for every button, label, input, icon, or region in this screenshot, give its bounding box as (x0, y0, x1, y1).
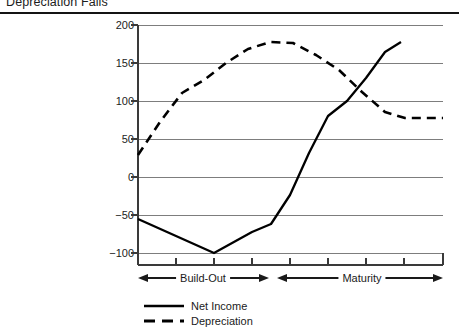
chart-legend: Net Income Depreciation (144, 298, 253, 328)
phase-label-build-out: Build-Out (176, 272, 230, 284)
legend-swatch-solid (144, 301, 184, 311)
legend-label-depreciation: Depreciation (191, 315, 253, 327)
phase-label-maturity: Maturity (338, 272, 385, 284)
legend-swatch-dashed (144, 316, 184, 326)
legend-label-net-income: Net Income (191, 300, 247, 312)
chart-figure: Depreciation Falls 200 150 100 50 0 −50 … (0, 0, 459, 329)
series-line-net-income (138, 42, 401, 253)
legend-item-net-income: Net Income (144, 298, 253, 313)
y-tick-marks (131, 25, 138, 253)
gridlines (138, 25, 443, 253)
legend-item-depreciation: Depreciation (144, 313, 253, 328)
series-line-depreciation (138, 42, 443, 155)
x-tick-marks (138, 258, 443, 265)
